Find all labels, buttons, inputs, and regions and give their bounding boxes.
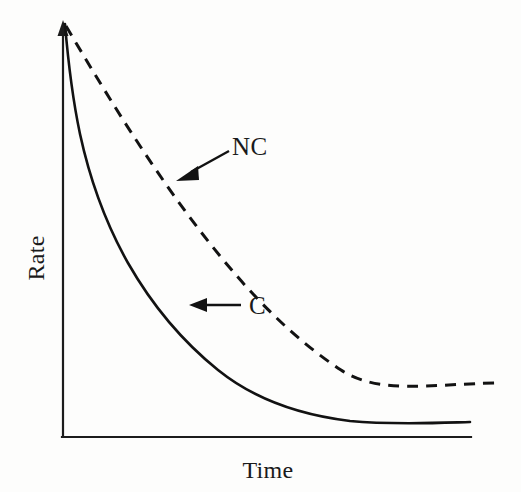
decay-curves-chart: NC C Rate Time xyxy=(0,0,521,492)
series-curve-nc xyxy=(66,26,497,386)
chart-figure: NC C Rate Time xyxy=(0,0,521,492)
y-axis xyxy=(58,20,69,437)
series-label-nc: NC xyxy=(232,133,268,160)
series-curve-c xyxy=(65,24,470,423)
series-label-c: C xyxy=(249,292,266,319)
y-axis-label: Rate xyxy=(23,235,49,280)
c-arrowhead-icon xyxy=(189,298,207,312)
x-axis-label: Time xyxy=(242,457,293,483)
c-annotation-arrow xyxy=(189,298,241,312)
nc-arrowhead-icon xyxy=(176,166,199,181)
nc-annotation-arrow xyxy=(176,151,229,181)
